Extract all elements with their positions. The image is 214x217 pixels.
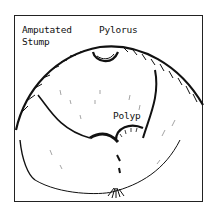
- label-amputated: Amputated: [22, 24, 72, 35]
- label-stump: Stump: [22, 36, 50, 47]
- label-polyp: Polyp: [113, 110, 141, 121]
- label-pylorus: Pylorus: [99, 24, 138, 35]
